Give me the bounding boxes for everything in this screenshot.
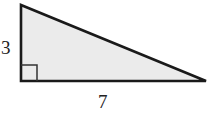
triangle-diagram: 3 7 <box>0 0 208 119</box>
horizontal-leg-label: 7 <box>98 91 108 112</box>
vertical-leg-label: 3 <box>1 37 11 58</box>
right-triangle <box>21 5 206 81</box>
